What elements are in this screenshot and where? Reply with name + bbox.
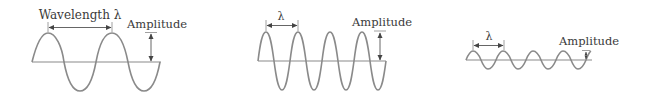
wavelength-label: λ	[278, 10, 285, 23]
amplitude-label: Amplitude	[558, 34, 619, 48]
panel-3: λ Amplitude	[466, 30, 619, 69]
wavelength-label: Wavelength λ	[39, 8, 122, 22]
panel-1: Wavelength λ Amplitude	[32, 8, 187, 91]
amplitude-label: Amplitude	[351, 15, 412, 29]
wave-diagram: Wavelength λ Amplitude λ Amplitude λ Amp…	[0, 0, 646, 112]
panel-2: λ Amplitude	[258, 10, 412, 90]
amplitude-label: Amplitude	[126, 17, 187, 31]
wavelength-label: λ	[486, 30, 493, 43]
